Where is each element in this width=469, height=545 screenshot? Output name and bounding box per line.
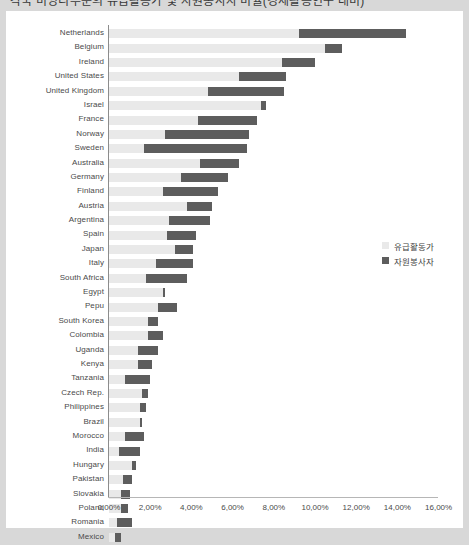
stacked-bar <box>109 202 212 211</box>
stacked-bar <box>109 29 406 38</box>
bar-segment-paid-staff <box>109 58 282 67</box>
category-label: Pakistan <box>73 474 104 484</box>
bar-row: South Africa <box>6 272 463 286</box>
category-label: Germany <box>70 172 104 182</box>
x-axis-tick-label: 4,00% <box>180 503 203 512</box>
bar-segment-paid-staff <box>109 288 163 297</box>
stacked-bar <box>109 389 148 398</box>
legend-label: 유급활동가 <box>394 240 434 252</box>
bar-row: Pakistan <box>6 473 463 487</box>
bar-row: Kenya <box>6 358 463 372</box>
legend-swatch-icon <box>382 242 389 249</box>
bar-row: Philippines <box>6 401 463 415</box>
bar-segment-paid-staff <box>109 29 299 38</box>
category-label: Finland <box>77 186 104 196</box>
bar-segment-paid-staff <box>109 447 119 456</box>
category-label: Kenya <box>81 359 104 369</box>
bar-row: Colombia <box>6 329 463 343</box>
bar-segment-volunteers <box>181 173 228 182</box>
bar-segment-volunteers <box>239 72 286 81</box>
bar-segment-volunteers <box>187 202 212 211</box>
bar-row: United States <box>6 70 463 84</box>
bar-segment-volunteers <box>148 331 162 340</box>
stacked-bar <box>109 44 342 53</box>
category-label: South Africa <box>60 273 104 283</box>
bar-segment-volunteers <box>119 447 140 456</box>
bar-segment-volunteers <box>142 389 148 398</box>
stacked-bar <box>109 144 247 153</box>
bar-row: Sweden <box>6 142 463 156</box>
bar-row: Morocco <box>6 430 463 444</box>
bar-segment-paid-staff <box>109 303 158 312</box>
stacked-bar <box>109 259 193 268</box>
bar-rows: NetherlandsBelgiumIrelandUnited StatesUn… <box>6 27 463 545</box>
category-label: Philippines <box>64 402 104 412</box>
stacked-bar <box>109 173 228 182</box>
bar-segment-paid-staff <box>109 346 138 355</box>
legend-item: 자원봉사자 <box>382 254 460 267</box>
x-axis-tick-label: 10,00% <box>301 503 328 512</box>
bar-row: Pepu <box>6 300 463 314</box>
category-label: Belgium <box>74 42 104 52</box>
stacked-bar <box>109 216 210 225</box>
bar-segment-volunteers <box>169 216 210 225</box>
bar-segment-paid-staff <box>109 360 138 369</box>
category-label: Uganda <box>75 345 104 355</box>
bar-segment-volunteers <box>115 533 121 542</box>
category-label: France <box>79 114 105 124</box>
bar-row: Tanzania <box>6 372 463 386</box>
stacked-bar <box>109 87 284 96</box>
bar-segment-volunteers <box>208 87 284 96</box>
bar-segment-volunteers <box>200 159 239 168</box>
category-label: Sweden <box>74 143 104 153</box>
bar-segment-volunteers <box>163 187 219 196</box>
category-label: Colombia <box>69 330 104 340</box>
bar-segment-volunteers <box>175 245 194 254</box>
legend: 유급활동가자원봉사자 <box>382 239 460 269</box>
stacked-bar <box>109 360 152 369</box>
stacked-bar <box>109 288 165 297</box>
stacked-bar <box>109 461 136 470</box>
x-axis-tick-label: 12,00% <box>343 503 370 512</box>
stacked-bar <box>109 231 196 240</box>
bar-segment-paid-staff <box>109 274 146 283</box>
stacked-bar <box>109 159 239 168</box>
bar-segment-volunteers <box>125 375 150 384</box>
category-label: South Korea <box>58 316 104 326</box>
stacked-bar <box>109 58 315 67</box>
x-axis-tick-label: 16,00% <box>425 503 452 512</box>
bar-segment-volunteers <box>325 44 341 53</box>
bar-segment-paid-staff <box>109 461 132 470</box>
bar-row: India <box>6 444 463 458</box>
x-axis-tick-label: 2,00% <box>139 503 162 512</box>
bar-segment-paid-staff <box>109 159 200 168</box>
bar-segment-paid-staff <box>109 87 208 96</box>
bar-segment-volunteers <box>198 116 258 125</box>
bar-row: Australia <box>6 157 463 171</box>
stacked-bar <box>109 245 193 254</box>
legend-swatch-icon <box>382 257 389 264</box>
bar-segment-volunteers <box>163 288 165 297</box>
bar-row: Brazil <box>6 416 463 430</box>
bar-segment-paid-staff <box>109 173 181 182</box>
bar-segment-paid-staff <box>109 317 148 326</box>
stacked-bar <box>109 418 142 427</box>
bar-row: Israel <box>6 99 463 113</box>
category-label: Brazil <box>83 417 104 427</box>
category-label: Australia <box>72 158 104 168</box>
bar-row: Egypt <box>6 286 463 300</box>
bar-segment-volunteers <box>299 29 406 38</box>
bar-row: Mexico <box>6 531 463 545</box>
bar-segment-paid-staff <box>109 418 140 427</box>
bar-segment-volunteers <box>125 432 144 441</box>
bar-segment-paid-staff <box>109 130 165 139</box>
stacked-bar <box>109 375 150 384</box>
bar-row: Finland <box>6 185 463 199</box>
bar-segment-paid-staff <box>109 245 175 254</box>
category-label: Netherlands <box>60 28 104 38</box>
stacked-bar <box>109 317 158 326</box>
stacked-bar <box>109 130 249 139</box>
category-label: Argentina <box>69 215 104 225</box>
x-axis-line <box>108 497 438 498</box>
